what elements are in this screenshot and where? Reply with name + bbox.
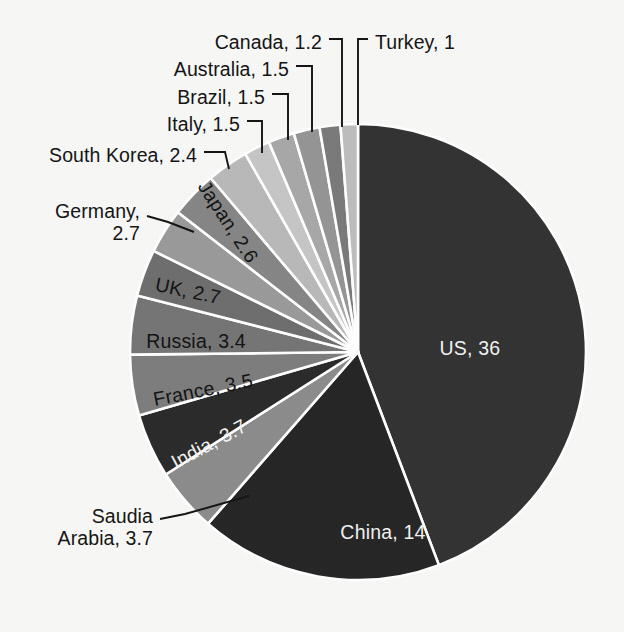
- slice-label: Australia, 1.5: [174, 58, 289, 80]
- slice-label: US, 36: [440, 337, 501, 360]
- leader-line: [358, 39, 368, 125]
- slice-label: Russia, 3.4: [146, 330, 246, 353]
- leader-line: [296, 66, 312, 132]
- slice-label: South Korea, 2.4: [49, 144, 197, 166]
- slice-label: Germany, 2.7: [55, 200, 140, 244]
- leader-line: [272, 94, 288, 140]
- slice-label: Brazil, 1.5: [177, 86, 265, 108]
- slice-label: Turkey, 1: [375, 31, 455, 53]
- cropped-title-remnant: [70, 0, 300, 10]
- slice-label: Saudia Arabia, 3.7: [58, 505, 153, 549]
- pie-chart: US, 36China, 14Saudia Arabia, 3.7India, …: [0, 0, 624, 632]
- slice-label: China, 14: [340, 521, 425, 544]
- leader-line: [329, 39, 342, 127]
- slice-label: Italy, 1.5: [167, 113, 240, 135]
- slice-label: Canada, 1.2: [215, 31, 322, 53]
